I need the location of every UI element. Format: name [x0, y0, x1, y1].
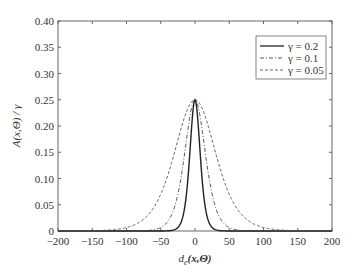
y-tick-label: 0.20: [35, 120, 55, 132]
y-tick-label: 0.10: [35, 173, 55, 185]
curve-0.05: [58, 100, 332, 231]
x-tick-label: 50: [224, 235, 236, 247]
x-axis-label: de(x,Θ): [178, 252, 211, 267]
y-tick-label: 0.35: [35, 41, 55, 53]
line-chart: 00.050.100.150.200.250.300.350.40 −200−1…: [0, 0, 357, 279]
x-tick-label: −150: [81, 235, 104, 247]
curve-0.1: [58, 100, 332, 231]
x-tick-label: −100: [115, 235, 138, 247]
y-tick-label: 0.40: [35, 15, 55, 27]
y-tick-label: 0.30: [35, 68, 55, 80]
x-tick-label: −200: [47, 235, 70, 247]
x-tick-label: 0: [192, 235, 198, 247]
x-tick-label: 150: [290, 235, 307, 247]
x-tick-label: −50: [152, 235, 170, 247]
data-curves: [58, 100, 332, 231]
y-tick-label: 0.15: [35, 146, 55, 158]
y-tick-label: 0.05: [35, 199, 55, 211]
x-tick-label: 100: [255, 235, 272, 247]
legend: γ = 0.2 γ = 0.1 γ = 0.05: [256, 36, 326, 79]
legend-item-gamma-0.05: γ = 0.05: [287, 64, 324, 76]
x-tick-label: 200: [324, 235, 341, 247]
y-tick-label: 0.25: [35, 94, 55, 106]
y-axis-label: A(x,Θ) / γ: [10, 104, 23, 148]
legend-item-gamma-0.1: γ = 0.1: [287, 52, 318, 64]
curve-0.2: [58, 100, 332, 231]
legend-item-gamma-0.2: γ = 0.2: [287, 40, 318, 52]
